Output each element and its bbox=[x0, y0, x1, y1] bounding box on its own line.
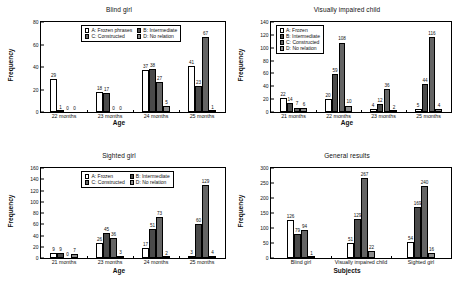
y-axis-tick-mark bbox=[271, 183, 274, 184]
y-axis-tick-mark bbox=[41, 179, 44, 180]
y-axis-tick-mark bbox=[41, 22, 44, 23]
legend-item: D: No relation bbox=[280, 46, 320, 51]
y-axis-tick-label: 40 bbox=[263, 84, 271, 89]
y-axis-tick-mark bbox=[271, 198, 274, 199]
bar-value-label: 3 bbox=[190, 251, 193, 256]
bar-value-label: 5 bbox=[417, 104, 420, 109]
legend-swatch-icon bbox=[280, 40, 284, 45]
y-axis-tick-mark bbox=[271, 213, 274, 214]
y-axis-label: Frequency bbox=[7, 49, 14, 82]
bar-value-label: 0 bbox=[66, 253, 69, 258]
bar-value-label: 54 bbox=[408, 237, 413, 242]
legend-swatch-icon bbox=[137, 34, 141, 39]
y-axis-tick-mark bbox=[271, 228, 274, 229]
bar-value-label: 12 bbox=[377, 99, 382, 104]
bar-value-label: 4 bbox=[372, 104, 375, 109]
bar bbox=[415, 109, 422, 112]
chart-title: General results bbox=[236, 152, 458, 159]
x-axis-tick-label: 23 months bbox=[98, 258, 123, 265]
y-axis-tick-label: 20 bbox=[33, 244, 41, 249]
legend-swatch-icon bbox=[130, 174, 134, 179]
bar bbox=[325, 99, 332, 112]
bar-value-label: 17 bbox=[104, 88, 109, 93]
legend-column: B: IntermediateD: No relation bbox=[130, 174, 170, 185]
bar-value-label: 23 bbox=[196, 81, 201, 86]
bar-value-label: 22 bbox=[280, 93, 285, 98]
y-axis-tick-label: 120 bbox=[30, 188, 41, 193]
bar bbox=[370, 109, 377, 112]
bar bbox=[149, 69, 156, 112]
legend-item: D: No relation bbox=[130, 180, 170, 185]
y-axis-tick-mark bbox=[271, 47, 274, 48]
y-axis-tick-label: 60 bbox=[263, 71, 271, 76]
bar bbox=[50, 79, 57, 112]
legend-swatch-icon bbox=[280, 28, 284, 33]
bar bbox=[188, 256, 195, 258]
bar bbox=[300, 108, 307, 112]
bar bbox=[142, 248, 149, 258]
bar bbox=[435, 109, 442, 112]
y-axis-tick-label: 50 bbox=[263, 241, 271, 246]
x-axis-tick-label: 25 months bbox=[190, 258, 215, 265]
bar-value-label: 0 bbox=[112, 107, 115, 112]
bar bbox=[202, 37, 209, 112]
bar bbox=[142, 70, 149, 112]
bar bbox=[57, 253, 64, 258]
chart-panel-visually-impaired-child: Visually impaired child Frequency 020406… bbox=[236, 6, 458, 146]
y-axis-tick-label: 60 bbox=[33, 42, 41, 47]
bar bbox=[377, 104, 384, 112]
legend-item-label: D: No relation bbox=[143, 34, 174, 39]
y-axis-label: Frequency bbox=[7, 195, 14, 228]
bar-value-label: 126 bbox=[287, 215, 295, 220]
y-axis-tick-mark bbox=[41, 168, 44, 169]
bar-value-label: 36 bbox=[384, 84, 389, 89]
y-axis-tick-label: 40 bbox=[33, 65, 41, 70]
plot-area: 050100150200250300Blind girl12679941Visu… bbox=[270, 167, 452, 259]
bar bbox=[195, 224, 202, 258]
bar-value-label: 0 bbox=[119, 107, 122, 112]
legend-swatch-icon bbox=[137, 28, 141, 33]
y-axis-tick-mark bbox=[41, 258, 44, 259]
y-axis-tick-mark bbox=[271, 112, 274, 113]
y-axis-tick-label: 250 bbox=[260, 181, 271, 186]
bar-value-label: 60 bbox=[196, 219, 201, 224]
x-axis-tick-label: 24 months bbox=[144, 112, 169, 119]
bar bbox=[422, 84, 429, 112]
legend-item-label: C: Constructed bbox=[91, 34, 124, 39]
y-axis-tick-mark bbox=[41, 213, 44, 214]
bar-value-label: 94 bbox=[302, 225, 307, 230]
x-axis-tick-label: 22 months bbox=[52, 112, 77, 119]
x-axis-tick-mark bbox=[133, 110, 134, 113]
y-axis-tick-mark bbox=[271, 258, 274, 259]
bar bbox=[202, 185, 209, 258]
bar bbox=[294, 234, 301, 258]
plot-area: 02040608010012014021 months22147622 mont… bbox=[270, 21, 452, 113]
y-axis-tick-label: 300 bbox=[260, 166, 271, 171]
bar bbox=[163, 106, 170, 112]
y-axis-tick-label: 120 bbox=[260, 32, 271, 37]
bar bbox=[156, 82, 163, 112]
x-axis-tick-mark bbox=[87, 256, 88, 259]
plot-area: 02040608022 months2910023 months18170024… bbox=[40, 21, 226, 113]
y-axis-tick-label: 80 bbox=[263, 58, 271, 63]
bar bbox=[195, 86, 202, 112]
y-axis-tick-mark bbox=[41, 224, 44, 225]
y-axis-tick-mark bbox=[41, 190, 44, 191]
plot-area-wrapper: Frequency 02040608010012014021 months221… bbox=[236, 17, 458, 127]
bar bbox=[103, 233, 110, 258]
bar-value-label: 18 bbox=[97, 87, 102, 92]
bar-value-label: 4 bbox=[211, 251, 214, 256]
plot-area-wrapper: Frequency 02040608022 months2910023 mont… bbox=[6, 17, 232, 127]
bar-value-label: 67 bbox=[203, 32, 208, 37]
y-axis-tick-mark bbox=[271, 99, 274, 100]
bar-value-label: 37 bbox=[143, 65, 148, 70]
y-axis-tick-mark bbox=[41, 235, 44, 236]
bar-value-label: 41 bbox=[189, 61, 194, 66]
y-axis-tick-mark bbox=[41, 44, 44, 45]
bar bbox=[368, 251, 375, 258]
bar-value-label: 45 bbox=[104, 228, 109, 233]
y-axis-label: Frequency bbox=[237, 49, 244, 82]
legend-swatch-icon bbox=[85, 28, 89, 33]
bar bbox=[414, 207, 421, 258]
chart-title: Sighted girl bbox=[6, 152, 232, 159]
